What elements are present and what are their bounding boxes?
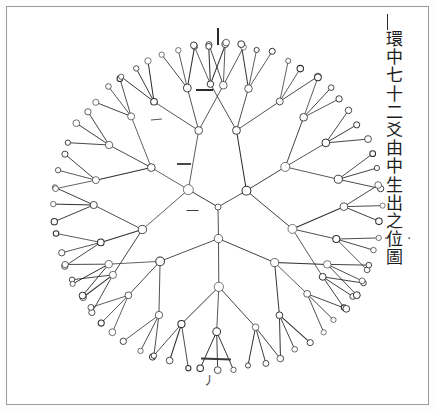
tree-node	[271, 259, 279, 267]
tree-edge	[55, 187, 94, 205]
tree-edge	[275, 263, 328, 265]
tree-edge	[188, 131, 198, 190]
tree-edge	[68, 143, 109, 145]
tree-edge	[131, 116, 151, 167]
tree-edge	[109, 261, 160, 264]
tree-node	[88, 304, 94, 310]
tree-node	[109, 329, 116, 336]
tree-edge	[120, 79, 131, 117]
tree-edge	[292, 207, 343, 229]
tree-node	[166, 357, 173, 364]
center-glyph-mark: 一	[186, 200, 199, 219]
tree-node	[231, 367, 236, 372]
tree-edge	[65, 242, 101, 266]
top-center-tick-mark	[217, 28, 219, 45]
tree-node	[288, 224, 297, 233]
tree-node	[151, 98, 158, 105]
tree-node	[195, 127, 203, 135]
tree-edge	[199, 85, 224, 130]
tree-node	[322, 139, 330, 147]
tree-edge	[248, 327, 256, 365]
bottom-glyph-mark: 丿	[203, 371, 215, 388]
tree-edge	[56, 233, 101, 242]
tree-node	[55, 168, 60, 173]
tree-node	[98, 320, 104, 326]
tree-node	[92, 177, 99, 184]
inscription-title: 環中七十二爻由中生出之位圖	[368, 30, 402, 267]
tree-node	[183, 84, 191, 92]
tree-node	[334, 175, 342, 183]
tree-edge	[285, 143, 326, 167]
tree-node	[70, 281, 75, 286]
tree-edge	[217, 332, 218, 370]
diagram-plate: 一 丿 · · · 環中七十二爻由中生出之位圖	[0, 0, 436, 412]
top-dash-mark	[196, 89, 213, 91]
tree-edge	[151, 168, 188, 190]
tree-node	[345, 107, 352, 114]
tree-node	[214, 282, 223, 291]
tree-edge	[209, 46, 211, 84]
tree-edge	[160, 239, 218, 262]
tree-edge	[53, 204, 94, 205]
tree-edge	[170, 324, 182, 361]
tree-edge	[73, 264, 109, 284]
tree-edge	[194, 45, 211, 84]
tree-node	[292, 346, 298, 352]
tree-node	[85, 109, 91, 115]
tree-node	[79, 292, 86, 299]
tree-edge	[275, 263, 308, 294]
tree-node	[300, 113, 308, 121]
tree-edge	[76, 123, 109, 145]
tree-node	[331, 317, 336, 322]
tree-edge	[217, 287, 219, 332]
tree-edge	[279, 315, 294, 349]
tree-edge	[88, 112, 109, 145]
tree-node	[307, 340, 313, 346]
tree-edge	[275, 263, 280, 316]
tree-node	[138, 225, 146, 233]
tree-edge	[200, 332, 216, 369]
tree-node	[120, 338, 126, 344]
tree-edge	[209, 45, 223, 86]
tree-edge	[246, 167, 285, 191]
tree-edge	[217, 332, 234, 370]
tree-edge	[62, 242, 101, 252]
tree-edge	[236, 130, 246, 190]
tree-node	[207, 81, 214, 88]
tree-edge	[236, 101, 279, 130]
tree-node	[233, 126, 241, 134]
tree-node	[343, 305, 350, 312]
tree-edge	[256, 327, 266, 363]
tree-edge	[219, 287, 256, 327]
tree-node	[109, 271, 116, 278]
tree-edge	[96, 168, 151, 181]
tree-node	[254, 47, 259, 52]
tree-node	[93, 99, 99, 105]
tree-node	[242, 186, 251, 195]
tree-node	[51, 218, 57, 224]
tree-edge	[141, 315, 159, 351]
tree-edge	[101, 230, 143, 243]
tree-edge	[181, 287, 218, 324]
tree-edge	[280, 77, 318, 102]
tree-node	[359, 278, 365, 284]
tree-node	[59, 250, 65, 256]
tree-edge	[241, 44, 248, 88]
tree-node	[62, 151, 68, 157]
tree-node	[220, 81, 228, 89]
tree-node	[134, 66, 139, 71]
tree-node	[353, 292, 360, 299]
tree-edge	[181, 324, 188, 368]
tree-node	[281, 162, 290, 171]
tree-node	[65, 140, 70, 145]
tree-node	[214, 367, 221, 374]
tree-node	[321, 330, 326, 335]
plate-page: 一 丿 · · · 環中七十二爻由中生出之位圖	[0, 0, 436, 412]
tree-node	[183, 185, 193, 195]
tree-node	[90, 201, 97, 208]
tree-node	[53, 186, 59, 192]
tree-node	[269, 48, 275, 54]
tree-node	[215, 204, 221, 210]
tree-node	[277, 355, 283, 361]
tree-node	[51, 201, 56, 206]
